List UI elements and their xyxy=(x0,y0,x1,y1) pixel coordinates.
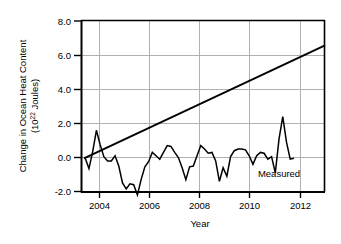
y-axis-title-line2: (1022 Joules) xyxy=(29,79,41,133)
y-axis-unit-prefix: (10 xyxy=(29,119,40,133)
chart-canvas: 8.0 6.0 4.0 2.0 0.0 -2.0 2004 2006 2008 … xyxy=(0,0,341,244)
y-axis-title-line1: Change in Ocean Heat Content xyxy=(17,39,28,172)
ytick-label-6: 6.0 xyxy=(58,50,71,61)
ytick-label-4: 4.0 xyxy=(58,84,71,95)
xtick-label-2012: 2012 xyxy=(290,200,311,211)
x-axis-title: Year xyxy=(190,218,209,229)
ocean-heat-content-chart: 8.0 6.0 4.0 2.0 0.0 -2.0 2004 2006 2008 … xyxy=(0,0,341,244)
plot-area-background xyxy=(81,20,325,192)
ytick-label-0: 0.0 xyxy=(58,152,71,163)
xtick-label-2006: 2006 xyxy=(139,200,160,211)
y-axis-unit-suffix: Joules) xyxy=(29,79,40,112)
ytick-label-2: 2.0 xyxy=(58,118,71,129)
xtick-label-2004: 2004 xyxy=(89,200,110,211)
measured-series-label: Measured xyxy=(258,168,300,179)
ytick-label-neg2: -2.0 xyxy=(55,186,71,197)
ytick-label-8: 8.0 xyxy=(58,16,71,27)
xtick-label-2008: 2008 xyxy=(189,200,210,211)
xtick-label-2010: 2010 xyxy=(239,200,260,211)
